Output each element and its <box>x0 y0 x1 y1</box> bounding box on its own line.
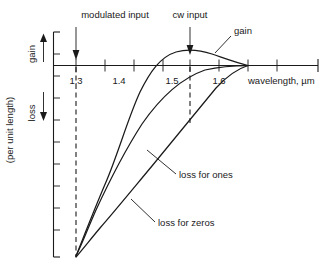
y-axis-outer-label: (per unit length) <box>4 97 15 164</box>
loss-for-zeros-label: loss for zeros <box>158 217 215 228</box>
modulated-input-arrow-icon <box>73 27 80 60</box>
modulated-input-label: modulated input <box>81 9 149 20</box>
gain-loss-spectrum-chart: (per unit length) gain loss <box>0 0 328 263</box>
y-axis-ticks <box>54 54 61 230</box>
curve-loss-for-zeros <box>76 66 248 258</box>
x-tick-label-3: 1.5 <box>165 75 178 86</box>
x-axis-title: wavelength, µm <box>247 75 315 86</box>
cw-input-label: cw input <box>173 9 208 20</box>
gain-direction-arrow-icon <box>40 34 47 63</box>
loss-for-zeros-leader-line <box>131 199 155 222</box>
x-axis <box>54 59 319 73</box>
y-axis-gain-label: gain <box>26 45 37 63</box>
loss-direction-arrow-icon <box>40 92 47 121</box>
cw-input-arrow-icon <box>187 27 194 55</box>
x-tick-label-2: 1.4 <box>112 75 125 86</box>
y-axis-loss-label: loss <box>26 104 37 121</box>
figure-container: (per unit length) gain loss <box>0 0 328 263</box>
gain-curve-label: gain <box>234 25 252 36</box>
gain-leader-line <box>215 36 231 53</box>
loss-for-ones-label: loss for ones <box>179 169 233 180</box>
